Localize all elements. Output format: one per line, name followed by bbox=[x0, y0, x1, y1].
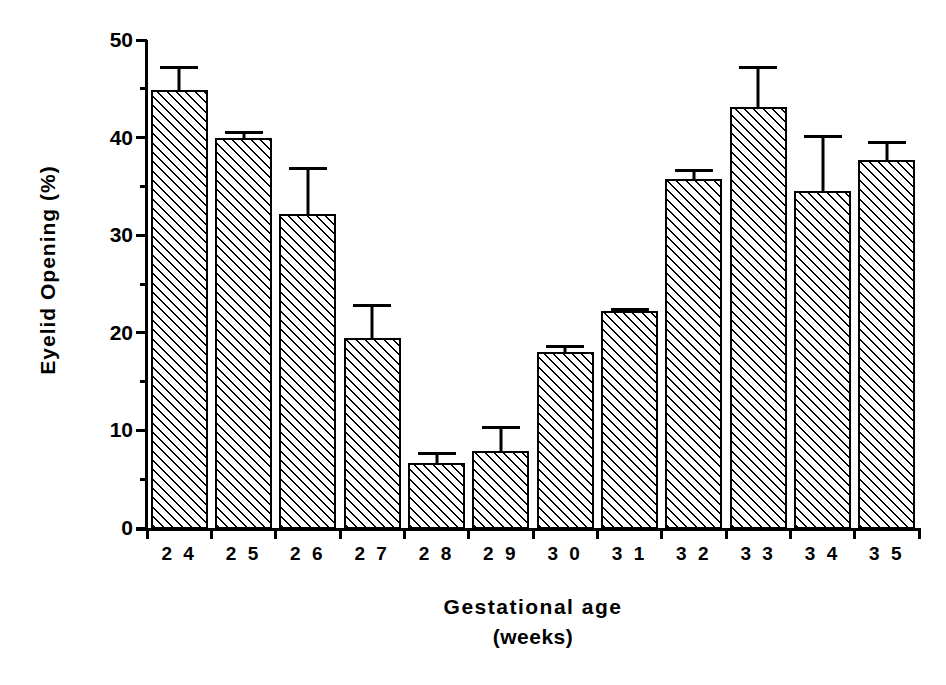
x-tick-label: 3 1 bbox=[612, 543, 647, 565]
y-tick-minor bbox=[140, 185, 147, 188]
x-tick bbox=[660, 528, 663, 539]
error-bar-whisker bbox=[371, 304, 374, 338]
y-tick-label: 50 bbox=[110, 28, 133, 52]
y-tick-major bbox=[136, 136, 147, 139]
error-bar-cap bbox=[418, 452, 456, 455]
x-tick-label: 2 4 bbox=[161, 543, 196, 565]
x-tick-label: 3 0 bbox=[547, 543, 582, 565]
y-tick-major bbox=[136, 234, 147, 237]
y-tick-major bbox=[136, 331, 147, 334]
bar bbox=[408, 463, 465, 529]
x-tick-label: 2 8 bbox=[419, 543, 454, 565]
bar bbox=[665, 179, 722, 529]
x-tick-label: 3 5 bbox=[869, 543, 904, 565]
x-tick bbox=[274, 528, 277, 539]
x-tick bbox=[403, 528, 406, 539]
y-tick-label: 10 bbox=[110, 418, 133, 442]
error-bar-whisker bbox=[178, 66, 181, 89]
bar bbox=[601, 311, 658, 529]
y-tick-minor bbox=[140, 87, 147, 90]
error-bar-whisker bbox=[821, 135, 824, 192]
error-bar-cap bbox=[289, 167, 327, 170]
y-tick-label: 20 bbox=[110, 321, 133, 345]
bar bbox=[215, 138, 272, 529]
x-tick-label: 2 5 bbox=[226, 543, 261, 565]
x-tick-origin bbox=[146, 528, 149, 539]
x-tick-label: 2 6 bbox=[290, 543, 325, 565]
error-bar-cap bbox=[546, 345, 584, 348]
error-bar-cap bbox=[868, 141, 906, 144]
x-tick bbox=[467, 528, 470, 539]
x-axis-title-line2: (weeks) bbox=[147, 622, 919, 652]
x-tick-label: 3 4 bbox=[805, 543, 840, 565]
x-tick bbox=[596, 528, 599, 539]
x-axis-title-line1: Gestational age bbox=[147, 592, 919, 622]
error-bar-cap bbox=[482, 426, 520, 429]
error-bar-cap bbox=[611, 308, 649, 311]
x-axis-title: Gestational age (weeks) bbox=[147, 592, 919, 652]
y-tick-minor bbox=[140, 478, 147, 481]
y-tick-label: 40 bbox=[110, 126, 133, 150]
x-tick-label: 2 9 bbox=[483, 543, 518, 565]
y-tick-label: 0 bbox=[121, 516, 133, 540]
y-axis-title: Eyelid Opening (%) bbox=[26, 0, 70, 540]
x-tick bbox=[853, 528, 856, 539]
x-tick-label: 3 2 bbox=[676, 543, 711, 565]
bar bbox=[472, 451, 529, 529]
x-tick-label: 2 7 bbox=[354, 543, 389, 565]
x-tick bbox=[789, 528, 792, 539]
x-tick-label: 3 3 bbox=[740, 543, 775, 565]
error-bar-whisker bbox=[757, 66, 760, 107]
bar bbox=[730, 107, 787, 529]
x-tick bbox=[210, 528, 213, 539]
y-tick-minor bbox=[140, 380, 147, 383]
bar-chart-figure: Eyelid Opening (%) 01020304050 2 42 52 6… bbox=[0, 0, 946, 685]
error-bar-cap bbox=[739, 66, 777, 69]
y-tick-major bbox=[136, 429, 147, 432]
x-tick bbox=[918, 528, 921, 539]
y-tick-label: 30 bbox=[110, 223, 133, 247]
bar bbox=[279, 214, 336, 529]
bar bbox=[344, 338, 401, 529]
error-bar-whisker bbox=[306, 167, 309, 214]
y-axis-title-text: Eyelid Opening (%) bbox=[36, 165, 60, 374]
error-bar-cap bbox=[353, 304, 391, 307]
y-tick-minor bbox=[140, 283, 147, 286]
plot-area: 01020304050 2 42 52 62 72 82 93 03 13 23… bbox=[147, 40, 919, 528]
bar bbox=[794, 191, 851, 529]
bar bbox=[858, 160, 915, 529]
error-bar-whisker bbox=[499, 426, 502, 450]
y-tick-major bbox=[136, 39, 147, 42]
bar bbox=[537, 352, 594, 529]
error-bar-cap bbox=[804, 135, 842, 138]
x-tick bbox=[532, 528, 535, 539]
x-tick bbox=[725, 528, 728, 539]
bar bbox=[151, 90, 208, 529]
error-bar-cap bbox=[675, 169, 713, 172]
x-tick bbox=[339, 528, 342, 539]
error-bar-cap bbox=[225, 131, 263, 134]
error-bar-cap bbox=[160, 66, 198, 69]
